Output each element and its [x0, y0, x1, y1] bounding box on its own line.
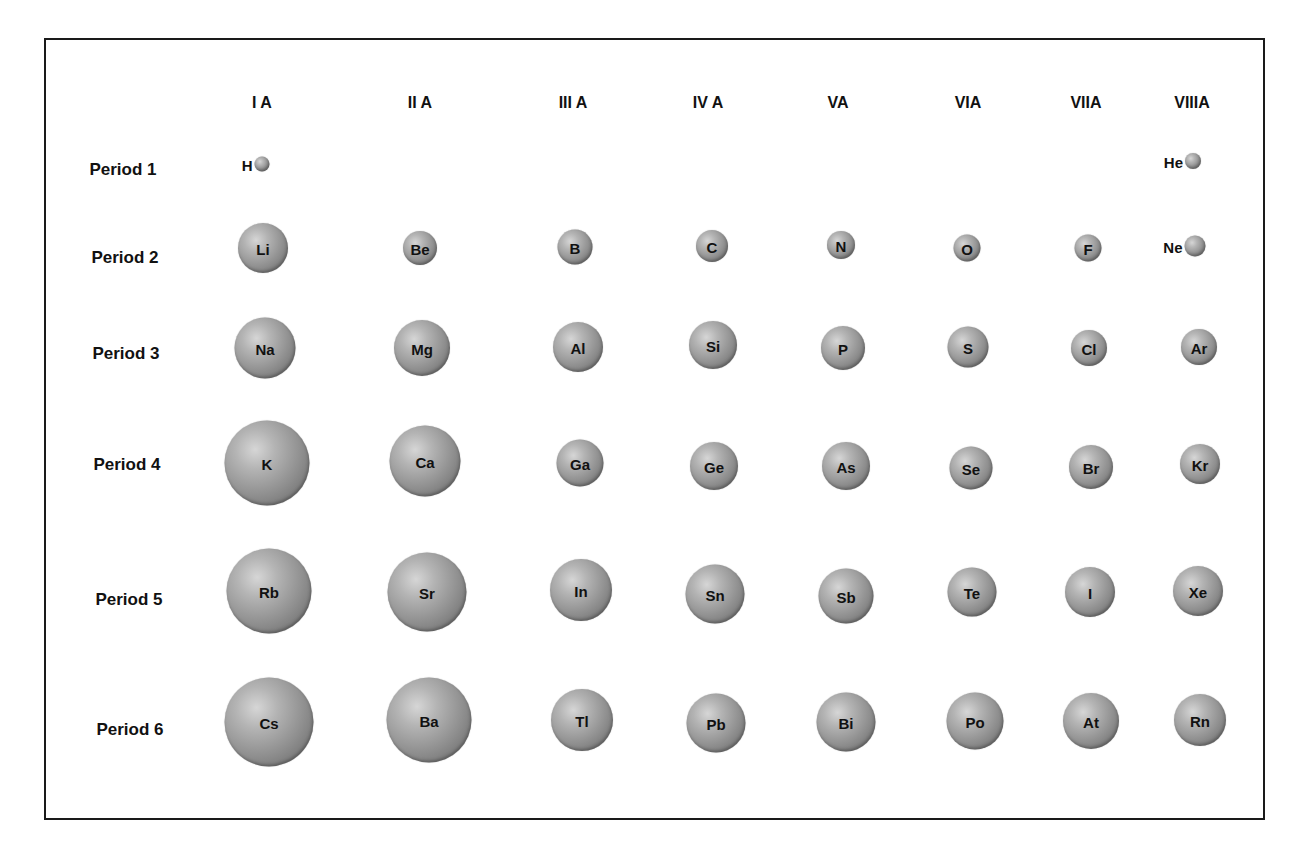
period-label: Period 2 — [91, 248, 158, 268]
element-symbol: S — [963, 341, 973, 356]
element-symbol: Be — [410, 242, 429, 257]
element-symbol: Te — [964, 586, 980, 601]
atom-sphere-tl: Tl — [551, 689, 613, 751]
element-symbol: C — [707, 240, 718, 255]
atom-sphere-sb: Sb — [819, 569, 874, 624]
atom-sphere-sr: Sr — [388, 553, 467, 632]
element-symbol: Cl — [1082, 342, 1097, 357]
element-symbol: Br — [1083, 461, 1100, 476]
atom-sphere-p: P — [821, 326, 865, 370]
element-symbol: K — [262, 457, 273, 472]
atom-sphere-bi: Bi — [817, 693, 876, 752]
atom-sphere-cl: Cl — [1071, 330, 1107, 366]
element-symbol: Rb — [259, 585, 279, 600]
atom-sphere-br: Br — [1069, 445, 1113, 489]
atom-sphere-se: Se — [950, 447, 993, 490]
period-label: Period 4 — [93, 455, 160, 475]
element-symbol: Sb — [836, 590, 855, 605]
element-symbol: Li — [256, 242, 269, 257]
atom-sphere-si: Si — [689, 321, 737, 369]
atom-sphere-h — [255, 157, 270, 172]
element-symbol: Bi — [839, 716, 854, 731]
group-header: VA — [827, 94, 848, 112]
atom-sphere-k: K — [225, 421, 310, 506]
atom-sphere-at: At — [1063, 693, 1119, 749]
element-symbol: Ge — [704, 460, 724, 475]
atom-sphere-rb: Rb — [227, 549, 312, 634]
atom-sphere-i: I — [1065, 567, 1115, 617]
element-symbol: Pb — [706, 717, 725, 732]
period-label: Period 5 — [95, 590, 162, 610]
element-symbol: Se — [962, 462, 980, 477]
atom-sphere-ge: Ge — [690, 442, 738, 490]
atom-sphere-ba: Ba — [387, 678, 472, 763]
atom-sphere-he — [1185, 153, 1201, 169]
atom-sphere-na: Na — [235, 318, 296, 379]
group-header: II A — [408, 94, 432, 112]
element-symbol: Ba — [419, 714, 438, 729]
element-symbol: Po — [965, 715, 984, 730]
atom-sphere-ca: Ca — [390, 426, 461, 497]
group-header: IV A — [693, 94, 724, 112]
element-symbol: Cs — [259, 716, 278, 731]
atom-sphere-ar: Ar — [1181, 329, 1217, 365]
element-symbol: B — [570, 241, 581, 256]
element-symbol: Si — [706, 339, 720, 354]
atom-sphere-o: O — [954, 235, 981, 262]
element-symbol: Tl — [575, 714, 588, 729]
atom-sphere-mg: Mg — [394, 320, 450, 376]
element-symbol: I — [1088, 586, 1092, 601]
atom-sphere-n: N — [827, 231, 855, 259]
atom-sphere-f: F — [1075, 235, 1102, 262]
period-label: Period 1 — [89, 160, 156, 180]
element-symbol: He — [1164, 154, 1183, 171]
group-header: I A — [252, 94, 272, 112]
element-symbol: Rn — [1190, 714, 1210, 729]
atom-sphere-in: In — [550, 559, 612, 621]
atom-sphere-ne — [1185, 236, 1206, 257]
atom-sphere-te: Te — [948, 568, 997, 617]
atom-sphere-as: As — [822, 442, 870, 490]
period-label: Period 6 — [96, 720, 163, 740]
element-symbol: Ne — [1163, 239, 1182, 256]
atom-sphere-sn: Sn — [686, 565, 745, 624]
element-symbol: Xe — [1189, 585, 1207, 600]
atom-sphere-b: B — [558, 230, 593, 265]
element-symbol: Kr — [1192, 458, 1209, 473]
element-symbol: Ca — [415, 455, 434, 470]
element-symbol: In — [574, 584, 587, 599]
atom-sphere-c: C — [696, 230, 728, 262]
atom-sphere-kr: Kr — [1180, 444, 1220, 484]
element-symbol: Sn — [705, 588, 724, 603]
group-header: VIIA — [1070, 94, 1101, 112]
atom-sphere-rn: Rn — [1174, 694, 1226, 746]
atom-sphere-s: S — [948, 327, 989, 368]
element-symbol: At — [1083, 715, 1099, 730]
atom-sphere-po: Po — [947, 693, 1004, 750]
atom-sphere-xe: Xe — [1173, 566, 1223, 616]
element-symbol: O — [961, 242, 973, 257]
element-symbol: Ar — [1191, 341, 1208, 356]
group-header: III A — [559, 94, 588, 112]
atom-sphere-cs: Cs — [225, 678, 314, 767]
atom-sphere-pb: Pb — [687, 694, 746, 753]
element-symbol: Na — [255, 342, 274, 357]
element-symbol: Sr — [419, 586, 435, 601]
atom-sphere-ga: Ga — [557, 440, 604, 487]
element-symbol: Mg — [411, 342, 433, 357]
group-header: VIIIA — [1174, 94, 1210, 112]
element-symbol: Ga — [570, 457, 590, 472]
element-symbol: N — [836, 239, 847, 254]
atom-sphere-al: Al — [553, 322, 603, 372]
element-symbol: Al — [571, 341, 586, 356]
atom-sphere-be: Be — [403, 231, 437, 265]
element-symbol: As — [836, 460, 855, 475]
period-label: Period 3 — [92, 344, 159, 364]
atom-sphere-li: Li — [238, 223, 288, 273]
element-symbol: F — [1083, 242, 1092, 257]
element-symbol: H — [242, 157, 253, 174]
group-header: VIA — [955, 94, 982, 112]
element-symbol: P — [838, 342, 848, 357]
